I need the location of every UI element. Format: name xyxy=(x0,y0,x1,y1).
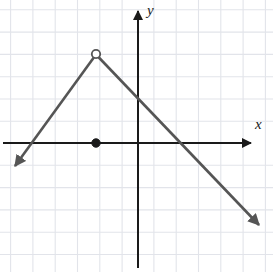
vertex-open-circle-marker xyxy=(92,50,100,58)
right-branch-ray xyxy=(96,55,259,226)
closed-point-marker xyxy=(92,139,100,147)
y-axis-label: y xyxy=(147,3,154,18)
grid-lines xyxy=(0,0,273,272)
graph-figure: y x xyxy=(0,0,273,272)
coordinate-plane-svg xyxy=(0,0,273,272)
x-axis-label: x xyxy=(255,117,262,132)
